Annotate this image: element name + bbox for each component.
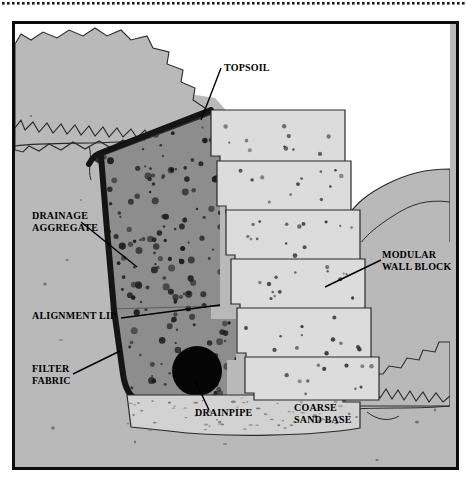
wall-block-1 — [211, 110, 345, 164]
wall-block-4 — [231, 259, 365, 311]
wall-block-6 — [245, 357, 379, 400]
label-alignment-lip: ALIGNMENT LIP — [32, 310, 116, 322]
label-modular-wall-block: MODULAR WALL BLOCK — [382, 249, 452, 272]
diagram-frame: TOPSOIL DRAINAGE AGGREGATE MODULAR WALL … — [12, 21, 459, 470]
wall-block-5 — [237, 308, 371, 360]
label-filter-fabric: FILTER FABRIC — [32, 363, 71, 386]
label-drainage-aggregate: DRAINAGE AGGREGATE — [32, 210, 98, 233]
label-coarse-sand-base: COARSE SAND BASE — [294, 402, 352, 425]
label-drainpipe: DRAINPIPE — [195, 407, 252, 419]
perforated-edge-strip — [0, 0, 466, 10]
retaining-wall-cross-section — [15, 24, 450, 461]
drainpipe — [172, 346, 222, 396]
wall-block-3 — [226, 210, 360, 262]
diagram-page: TOPSOIL DRAINAGE AGGREGATE MODULAR WALL … — [0, 0, 466, 489]
label-topsoil: TOPSOIL — [224, 62, 270, 74]
